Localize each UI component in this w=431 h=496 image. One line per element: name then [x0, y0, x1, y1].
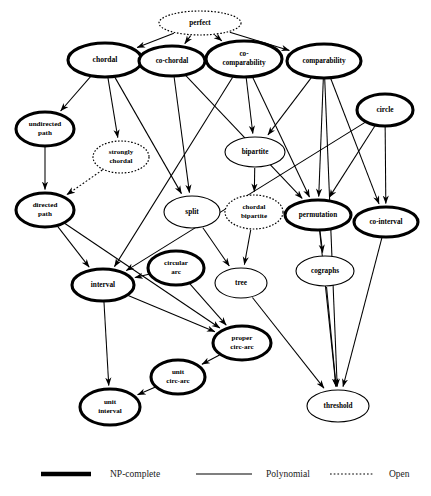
node-split[interactable]: split — [164, 196, 220, 228]
node-cographs[interactable]: cographs — [296, 256, 354, 286]
node-label-strongly-chordal: strongly — [109, 148, 134, 156]
node-threshold[interactable]: threshold — [307, 390, 369, 422]
node-chordal-bipartite[interactable]: chordalbipartite — [225, 195, 283, 229]
node-label-unit-interval: unit — [104, 398, 117, 406]
edge-proper-circ-arc-to-unit-circ-arc — [202, 355, 220, 364]
legend-label-polynomial: Polynomial — [266, 469, 310, 479]
edge-chordal-to-strongly-chordal — [108, 78, 118, 138]
node-strongly-chordal[interactable]: stronglychordal — [93, 141, 149, 173]
edge-circle-to-permutation — [329, 126, 375, 197]
edge-chordal-bipartite-to-tree — [244, 230, 250, 265]
graph-hierarchy-svg: perfectchordalco-chordalco-comparability… — [0, 0, 431, 496]
node-label-circular-arc: circular — [164, 259, 188, 267]
legend-layer: NP-complete Polynomial Open — [41, 469, 410, 479]
edge-split-to-tree — [203, 228, 229, 266]
node-label-perfect: perfect — [189, 19, 211, 27]
node-label-unit-circ-arc: circ-arc — [166, 377, 189, 385]
node-label-co-interval: co-interval — [369, 218, 402, 226]
node-comparability[interactable]: comparability — [287, 44, 361, 78]
diagram-canvas: perfectchordalco-chordalco-comparability… — [0, 0, 431, 496]
node-interval[interactable]: interval — [72, 269, 134, 301]
node-label-chordal: chordal — [93, 55, 118, 64]
node-label-chordal-bipartite: chordal — [243, 203, 266, 211]
node-label-tree: tree — [235, 278, 248, 287]
edge-co-comparability-to-bipartite — [246, 78, 253, 134]
node-bipartite[interactable]: bipartite — [225, 137, 285, 167]
edge-chordal-to-undirected-path — [61, 77, 91, 111]
edge-interval-to-unit-interval — [104, 302, 109, 386]
node-unit-circ-arc[interactable]: unitcirc-arc — [151, 360, 205, 394]
node-label-bipartite: bipartite — [242, 148, 269, 156]
node-label-permutation: permutation — [299, 211, 337, 219]
edge-co-chordal-to-split — [174, 77, 189, 193]
edge-unit-circ-arc-to-unit-interval — [138, 387, 155, 395]
node-label-unit-circ-arc: unit — [172, 368, 185, 376]
node-label-comparability: comparability — [302, 57, 346, 65]
edge-perfect-to-co-chordal — [185, 36, 191, 44]
node-label-undirected-path: path — [38, 129, 52, 137]
node-label-co-comparability: comparability — [222, 59, 266, 67]
node-label-directed-path: directed — [33, 201, 58, 209]
node-label-proper-circ-arc: circ-arc — [230, 343, 253, 351]
edge-interval-to-proper-circ-arc — [128, 296, 215, 332]
edge-comparability-to-bipartite — [268, 78, 311, 135]
node-label-unit-interval: interval — [98, 407, 122, 415]
node-label-proper-circ-arc: proper — [232, 334, 253, 342]
edge-perfect-to-co-comparability — [215, 35, 222, 41]
node-tree[interactable]: tree — [215, 268, 267, 298]
node-label-strongly-chordal: chordal — [110, 157, 133, 165]
edge-strongly-chordal-to-directed-path — [67, 170, 103, 195]
node-label-cographs: cographs — [311, 267, 339, 275]
node-label-interval: interval — [91, 280, 115, 289]
node-label-threshold: threshold — [323, 402, 352, 410]
edge-co-chordal-to-permutation — [186, 76, 302, 199]
edge-circle-to-co-interval — [385, 127, 386, 204]
node-proper-circ-arc[interactable]: propercirc-arc — [213, 326, 271, 360]
edge-directed-path-to-interval — [58, 226, 90, 267]
node-label-chordal-bipartite: bipartite — [241, 212, 267, 220]
edge-comparability-to-permutation — [319, 79, 324, 197]
node-chordal[interactable]: chordal — [68, 43, 142, 77]
node-label-co-chordal: co-chordal — [156, 57, 189, 65]
node-label-undirected-path: undirected — [29, 120, 62, 128]
node-co-comparability[interactable]: co-comparability — [206, 41, 282, 77]
node-layer: perfectchordalco-chordalco-comparability… — [16, 11, 418, 425]
node-perfect[interactable]: perfect — [159, 11, 241, 35]
node-circle[interactable]: circle — [357, 94, 413, 126]
legend-label-np-complete: NP-complete — [110, 469, 160, 479]
node-undirected-path[interactable]: undirectedpath — [16, 112, 74, 146]
legend-label-open: Open — [389, 469, 410, 479]
node-label-directed-path: path — [38, 210, 52, 218]
node-label-split: split — [185, 207, 199, 216]
node-label-co-comparability: co- — [239, 50, 249, 58]
node-label-circular-arc: arc — [171, 268, 181, 276]
node-unit-interval[interactable]: unitinterval — [80, 389, 140, 425]
node-co-chordal[interactable]: co-chordal — [139, 46, 205, 76]
node-label-circle: circle — [376, 105, 394, 114]
edge-co-interval-to-threshold — [343, 238, 382, 387]
node-permutation[interactable]: permutation — [285, 200, 351, 230]
node-circular-arc[interactable]: circulararc — [148, 251, 204, 285]
node-co-interval[interactable]: co-interval — [354, 207, 418, 237]
node-directed-path[interactable]: directedpath — [16, 193, 74, 227]
